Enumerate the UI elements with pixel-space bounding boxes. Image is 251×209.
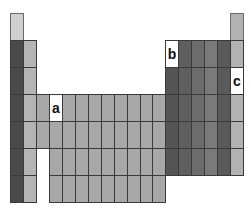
element-cell-r6-c16 [204,148,218,176]
marked-cell-b: b [165,40,179,68]
element-cell-r2-c1 [10,40,24,68]
element-cell-r2-c14 [178,40,192,68]
element-cell-r7-c5 [62,175,76,203]
element-cell-r2-c17 [217,40,231,68]
element-cell-r5-c3 [36,121,50,149]
element-cell-r4-c2 [23,94,37,122]
element-cell-r4-c13 [165,94,179,122]
element-cell-r7-c12 [152,175,166,203]
element-cell-r2-c15 [191,40,205,68]
element-cell-r6-c13 [165,148,179,176]
element-cell-r3-c13 [165,67,179,95]
element-cell-r7-c9 [114,175,128,203]
element-cell-r5-c7 [88,121,102,149]
element-cell-r6-c4 [49,148,63,176]
element-cell-r5-c15 [191,121,205,149]
element-cell-r7-c2 [23,175,37,203]
element-cell-r5-c17 [217,121,231,149]
element-cell-r5-c6 [75,121,89,149]
element-cell-r6-c17 [217,148,231,176]
element-cell-r7-c6 [75,175,89,203]
element-cell-r6-c14 [178,148,192,176]
element-cell-r7-c7 [88,175,102,203]
cell-label-c: c [233,74,241,88]
element-cell-r4-c17 [217,94,231,122]
element-cell-r5-c1 [10,121,24,149]
element-cell-r4-c12 [152,94,166,122]
element-cell-r6-c18 [230,148,244,176]
element-cell-r3-c15 [191,67,205,95]
element-cell-r5-c12 [152,121,166,149]
cell-label-a: a [52,101,60,115]
element-cell-r5-c16 [204,121,218,149]
element-cell-r4-c16 [204,94,218,122]
element-cell-r1-c18 [230,13,244,41]
element-cell-r4-c10 [127,94,141,122]
element-cell-r7-c1 [10,175,24,203]
element-cell-r4-c18 [230,94,244,122]
element-cell-r6-c7 [88,148,102,176]
element-cell-r5-c9 [114,121,128,149]
element-cell-r5-c18 [230,121,244,149]
periodic-table: bca [0,0,251,209]
element-cell-r6-c9 [114,148,128,176]
element-cell-r3-c1 [10,67,24,95]
element-cell-r6-c15 [191,148,205,176]
element-cell-r2-c16 [204,40,218,68]
element-cell-r4-c14 [178,94,192,122]
element-cell-r4-c1 [10,94,24,122]
element-cell-r3-c17 [217,67,231,95]
element-cell-r5-c5 [62,121,76,149]
element-cell-r6-c5 [62,148,76,176]
element-cell-r5-c2 [23,121,37,149]
element-cell-r7-c8 [101,175,115,203]
element-cell-r4-c6 [75,94,89,122]
element-cell-r4-c9 [114,94,128,122]
element-cell-r6-c10 [127,148,141,176]
element-cell-r6-c8 [101,148,115,176]
element-cell-r7-c4 [49,175,63,203]
element-cell-r5-c14 [178,121,192,149]
element-cell-r6-c1 [10,148,24,176]
element-cell-r4-c3 [36,94,50,122]
element-cell-r1-c1 [10,13,24,41]
element-cell-r5-c4 [49,121,63,149]
element-cell-r6-c12 [152,148,166,176]
element-cell-r4-c5 [62,94,76,122]
element-cell-r7-c10 [127,175,141,203]
element-cell-r5-c13 [165,121,179,149]
element-cell-r2-c2 [23,40,37,68]
element-cell-r3-c2 [23,67,37,95]
element-cell-r6-c6 [75,148,89,176]
element-cell-r5-c8 [101,121,115,149]
element-cell-r4-c7 [88,94,102,122]
element-cell-r3-c16 [204,67,218,95]
marked-cell-a: a [49,94,63,122]
element-cell-r5-c10 [127,121,141,149]
element-cell-r4-c15 [191,94,205,122]
element-cell-r4-c8 [101,94,115,122]
element-cell-r3-c14 [178,67,192,95]
element-cell-r2-c18 [230,40,244,68]
marked-cell-c: c [230,67,244,95]
cell-label-b: b [168,47,177,61]
element-cell-r6-c2 [23,148,37,176]
